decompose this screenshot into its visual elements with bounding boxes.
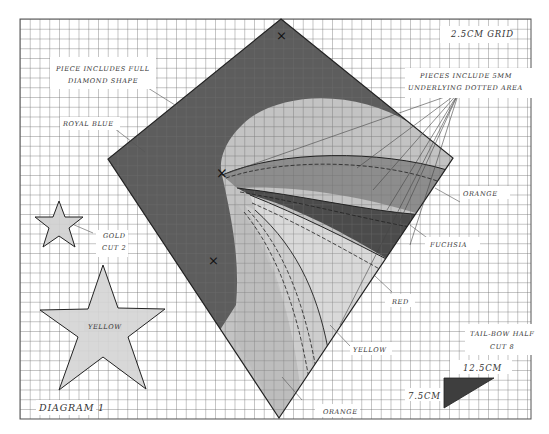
label-red: RED <box>391 298 409 306</box>
label-orange-lower: ORANGE <box>323 408 358 416</box>
cross-marker-lower: × <box>208 253 219 268</box>
label-yellow-star: YELLOW <box>88 323 122 331</box>
label-pieces-include-line2: UNDERLYING DOTTED AREA <box>408 84 523 92</box>
cross-marker-top: × <box>276 28 287 43</box>
label-gold-line1: GOLD <box>103 232 126 240</box>
kite-pattern-diagram: × × × PIECE INC <box>0 0 549 434</box>
label-tail-bow-line2: CUT 8 <box>490 343 514 351</box>
diagram-title: DIAGRAM 1 <box>38 402 105 413</box>
label-grid: 2.5CM GRID <box>450 29 514 39</box>
diagram-canvas: × × × PIECE INC <box>0 0 549 434</box>
label-dim-height: 7.5CM <box>408 391 441 401</box>
label-pieces-include-line1: PIECES INCLUDE 5MM <box>419 72 512 80</box>
label-dim-width: 12.5CM <box>463 363 502 373</box>
label-gold-line2: CUT 2 <box>102 244 126 252</box>
label-piece-full-line1: PIECE INCLUDES FULL <box>55 65 150 73</box>
label-orange-upper: ORANGE <box>463 190 498 198</box>
label-fuchsia: FUCHSIA <box>429 241 467 249</box>
label-royal-blue: ROYAL BLUE <box>62 120 114 128</box>
label-tail-bow-line1: TAIL-BOW HALF <box>470 330 535 338</box>
cross-marker-center: × <box>216 165 228 181</box>
label-yellow-right: YELLOW <box>353 346 387 354</box>
label-piece-full-line2: DIAMOND SHAPE <box>67 77 138 85</box>
